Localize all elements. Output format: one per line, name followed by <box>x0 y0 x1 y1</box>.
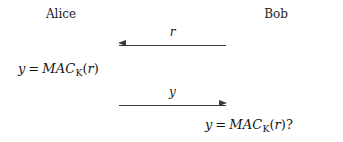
expr-subscript: K <box>76 67 83 78</box>
message-arrow-challenge: r <box>119 26 226 52</box>
party-label-alice: Alice <box>0 8 122 20</box>
arrowhead-right-icon <box>219 100 227 106</box>
expr-equals: = <box>215 117 226 132</box>
expr-suffix: ? <box>286 117 293 132</box>
message-arrow-response: y <box>119 86 226 112</box>
arrow-shaft <box>119 105 226 106</box>
expression-bob-mac-verify: y=MACK(r)? <box>205 118 293 133</box>
expr-lhs: y <box>18 61 25 76</box>
expr-close-paren: ) <box>94 61 99 76</box>
arrowhead-left-icon <box>118 40 126 46</box>
expr-subscript: K <box>263 123 270 134</box>
expr-equals: = <box>28 61 39 76</box>
party-label-bob: Bob <box>218 8 334 20</box>
message-label-response: y <box>119 86 226 98</box>
expr-function: MAC <box>229 117 262 132</box>
expr-function: MAC <box>42 61 75 76</box>
expression-alice-mac: y=MACK(r) <box>18 62 99 77</box>
expr-lhs: y <box>205 117 212 132</box>
message-label-challenge: r <box>119 26 226 38</box>
protocol-diagram: Alice Bob r y y=MACK(r) y=MACK(r)? <box>0 0 343 142</box>
arrow-shaft <box>119 45 226 46</box>
